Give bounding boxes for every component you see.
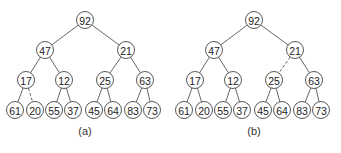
tree-edge xyxy=(92,25,119,45)
tree-edge xyxy=(18,88,23,102)
tree-node: 63 xyxy=(306,72,323,89)
tree-edge xyxy=(316,88,319,101)
node-value: 17 xyxy=(20,75,32,87)
tree-node: 61 xyxy=(176,102,193,119)
tree-node: 45 xyxy=(255,102,272,119)
tree-edge xyxy=(221,25,247,45)
node-value: 83 xyxy=(127,105,139,117)
tree-node: 47 xyxy=(37,42,54,59)
tree-node: 83 xyxy=(294,102,311,119)
node-value: 92 xyxy=(79,15,91,27)
dashed-tree-edge xyxy=(279,57,290,73)
tree-node: 92 xyxy=(246,12,263,29)
tree-node: 37 xyxy=(234,102,251,119)
dashed-tree-edge xyxy=(28,88,32,102)
tree-node: 47 xyxy=(206,42,223,59)
node-value: 21 xyxy=(289,45,301,57)
panel-caption: (a) xyxy=(78,125,91,137)
tree-node: 20 xyxy=(196,102,213,119)
tree-edge xyxy=(97,88,102,102)
node-value: 73 xyxy=(146,105,158,117)
node-value: 25 xyxy=(268,75,280,87)
node-value: 92 xyxy=(248,15,260,27)
tree-edge xyxy=(50,57,60,73)
tree-edge xyxy=(305,88,311,102)
tree-panel-b: 924721171225636120553745648373(b) xyxy=(176,12,330,138)
panel-caption: (b) xyxy=(247,125,260,137)
tree-edge xyxy=(66,88,70,102)
tree-node: 61 xyxy=(7,102,24,119)
tree-node: 63 xyxy=(137,72,154,89)
node-value: 20 xyxy=(198,105,210,117)
binary-tree-diagram: 924721171225636120553745648373(a) 924721… xyxy=(0,0,341,153)
tree-node: 45 xyxy=(86,102,103,119)
tree-node: 55 xyxy=(46,102,63,119)
tree-edge xyxy=(266,88,271,102)
node-value: 83 xyxy=(296,105,308,117)
tree-edge xyxy=(147,88,150,101)
node-value: 20 xyxy=(29,105,41,117)
node-value: 61 xyxy=(9,105,21,117)
tree-node: 92 xyxy=(77,12,94,29)
tree-edge xyxy=(261,25,288,45)
node-value: 73 xyxy=(315,105,327,117)
tree-edge xyxy=(197,88,201,102)
node-value: 64 xyxy=(107,105,119,117)
tree-edge xyxy=(107,88,111,102)
tree-edge xyxy=(136,88,142,102)
node-value: 45 xyxy=(88,105,100,117)
node-value: 37 xyxy=(67,105,79,117)
node-value: 47 xyxy=(208,45,220,57)
node-value: 21 xyxy=(120,45,132,57)
tree-node: 12 xyxy=(56,72,73,89)
node-value: 61 xyxy=(178,105,190,117)
node-value: 25 xyxy=(99,75,111,87)
tree-edge xyxy=(131,57,141,73)
tree-node: 21 xyxy=(287,42,304,59)
node-value: 47 xyxy=(39,45,51,57)
tree-node: 37 xyxy=(65,102,82,119)
tree-edge xyxy=(235,88,239,102)
tree-edge xyxy=(57,88,62,102)
tree-edge xyxy=(52,25,78,45)
tree-node: 21 xyxy=(118,42,135,59)
node-value: 37 xyxy=(236,105,248,117)
tree-node: 83 xyxy=(125,102,142,119)
tree-edge xyxy=(226,88,231,102)
tree-edge xyxy=(110,57,121,73)
node-value: 12 xyxy=(227,75,239,87)
tree-node: 73 xyxy=(313,102,330,119)
node-value: 45 xyxy=(257,105,269,117)
tree-panel-a: 924721171225636120553745648373(a) xyxy=(7,12,161,138)
node-value: 55 xyxy=(217,105,229,117)
node-value: 55 xyxy=(48,105,60,117)
tree-node: 64 xyxy=(274,102,291,119)
node-value: 17 xyxy=(189,75,201,87)
node-value: 63 xyxy=(139,75,151,87)
tree-node: 25 xyxy=(266,72,283,89)
tree-edge xyxy=(300,57,310,73)
tree-node: 73 xyxy=(144,102,161,119)
tree-node: 64 xyxy=(105,102,122,119)
node-value: 12 xyxy=(58,75,70,87)
tree-edge xyxy=(200,57,210,73)
node-value: 64 xyxy=(276,105,288,117)
tree-edge xyxy=(187,88,192,102)
tree-edge xyxy=(219,57,229,73)
tree-node: 25 xyxy=(97,72,114,89)
tree-edge xyxy=(276,88,280,102)
tree-node: 12 xyxy=(225,72,242,89)
tree-edge xyxy=(31,57,41,73)
tree-node: 17 xyxy=(18,72,35,89)
tree-node: 55 xyxy=(215,102,232,119)
tree-node: 17 xyxy=(187,72,204,89)
tree-node: 20 xyxy=(27,102,44,119)
node-value: 63 xyxy=(308,75,320,87)
